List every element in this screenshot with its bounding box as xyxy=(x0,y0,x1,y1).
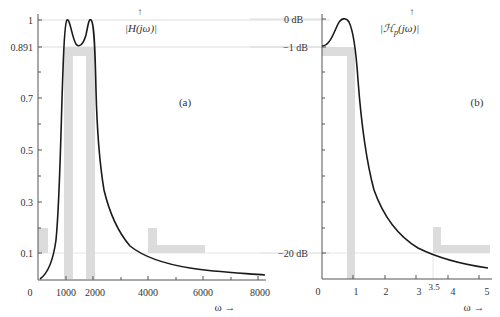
figure: 1 0.891 0.7 0.5 0.3 0.1 0 1000 2000 4000… xyxy=(0,0,500,317)
x-tick-b-5: 5 xyxy=(485,286,490,297)
x-tick-6000: 6000 xyxy=(193,287,213,298)
y-tick-03: 0.3 xyxy=(21,197,34,208)
panel-label-a: (a) xyxy=(179,96,192,109)
x-tick-2000: 2000 xyxy=(85,287,105,298)
function-label-b-tail: (jω)| xyxy=(398,22,419,35)
x-tick-b-4: 4 xyxy=(451,286,456,297)
x-axis-title-b: ω → xyxy=(464,301,485,313)
x-tick-8000: 8000 xyxy=(250,287,270,298)
y-tick-01: 0.1 xyxy=(21,248,34,259)
response-curve-b xyxy=(322,19,488,268)
y-tick-07: 0.7 xyxy=(21,93,34,104)
spec-mask-b xyxy=(322,47,490,279)
y-tick-1: 1 xyxy=(28,15,33,26)
x-tick-b-3: 3 xyxy=(417,286,422,297)
y-tick-1db: −1 dB xyxy=(283,42,308,53)
x-tick-b-1: 1 xyxy=(354,286,359,297)
x-tick-b-2: 2 xyxy=(384,286,389,297)
x-tick-0: 0 xyxy=(28,287,33,298)
panel-b: 0 dB −1 dB −20 dB 0 1 2 3 3.5 4 5 ω → ↑ … xyxy=(250,6,492,313)
x-tick-b-0: 0 xyxy=(316,286,321,297)
y-tick-05: 0.5 xyxy=(21,145,34,156)
panel-label-b: (b) xyxy=(471,96,484,109)
arrow-up-icon-a: ↑ xyxy=(138,6,143,17)
arrow-up-icon-b: ↑ xyxy=(410,6,415,17)
x-tick-4000: 4000 xyxy=(138,287,158,298)
y-tick-0891: 0.891 xyxy=(11,42,34,53)
y-tick-20db: −20 dB xyxy=(278,248,308,259)
x-tick-1000: 1000 xyxy=(56,287,76,298)
y-tick-0db: 0 dB xyxy=(284,14,304,25)
function-label-a: |H(jω)| xyxy=(125,22,157,35)
function-label-b: |ℋp(jω)| xyxy=(380,22,419,37)
x-axis-title-a: ω → xyxy=(215,301,236,313)
x-tick-b-35: 3.5 xyxy=(428,282,440,292)
